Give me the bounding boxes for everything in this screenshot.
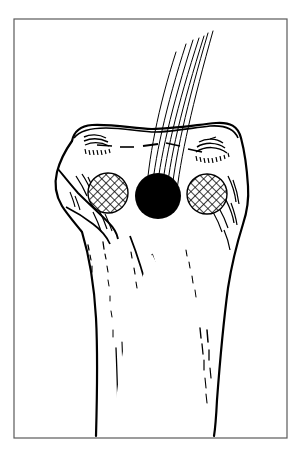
right-crosshatched-circle: [187, 174, 227, 214]
image-border-frame: [14, 19, 287, 438]
left-crosshatched-circle: [88, 173, 128, 213]
articular-margin-dash-1: [97, 145, 112, 146]
solid-black-circle-marker: [135, 173, 181, 219]
figure-container: Proximal tibia anterior view line drawin…: [0, 0, 303, 456]
anatomical-line-drawing: [0, 0, 303, 456]
